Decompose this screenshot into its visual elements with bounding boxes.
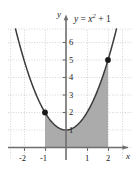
equation-equals: = [78,14,88,24]
x-tick-label-2: 1 [85,154,89,163]
x-tick-label-1: -1 [40,154,47,163]
graph-figure: y = x2 + 1 y x -2 -1 1 2 1 2 3 4 5 6 [0,0,139,176]
shaded-area-under-curve [45,60,108,148]
x-tick-label-3: 2 [106,154,110,163]
y-tick-label-2: 2 [69,108,73,117]
y-tick-label-6: 6 [69,38,73,47]
y-tick-label-4: 4 [69,73,73,82]
point-right-endpoint [105,57,111,63]
point-left-endpoint [42,110,48,116]
equation-label: y = x2 + 1 [74,13,111,25]
y-tick-label-3: 3 [69,91,73,100]
y-tick-label-5: 5 [69,56,73,65]
parabola-plot [0,0,139,176]
y-axis-label: y [57,10,61,19]
x-tick-label-0: -2 [19,154,26,163]
equation-tail: + 1 [96,14,111,24]
x-axis-label: x [126,152,130,161]
y-tick-label-1: 1 [69,126,73,135]
